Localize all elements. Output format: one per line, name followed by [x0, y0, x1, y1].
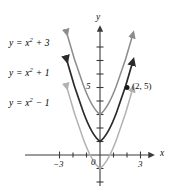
- label-exp-1: 2: [30, 66, 33, 73]
- x-axis-label: x: [160, 148, 164, 158]
- label-y-eq-x2-minus-1: y = x2 − 1: [9, 96, 50, 108]
- label-rhs-2: − 1: [36, 98, 50, 108]
- label-rhs-1: + 1: [36, 68, 50, 78]
- point-marker-2-5: [125, 85, 130, 90]
- label-y-eq-x2-plus-1: y = x2 + 1: [9, 66, 50, 78]
- label-rhs-0: + 3: [36, 38, 50, 48]
- label-y-eq-x2-plus-3: y = x2 + 3: [9, 36, 50, 48]
- x-tick-label-origin: 0: [91, 157, 96, 167]
- label-lhs-2: y = x: [9, 98, 30, 108]
- x-tick-label-3: 3: [138, 159, 143, 169]
- x-tick-label-neg3: −3: [53, 159, 64, 169]
- graph-figure: y = x2 + 3 y = x2 + 1 y = x2 − 1 (2, 5) …: [0, 0, 176, 193]
- label-lhs-0: y = x: [9, 38, 30, 48]
- label-exp-0: 2: [30, 36, 33, 43]
- label-lhs-1: y = x: [9, 68, 30, 78]
- label-exp-2: 2: [30, 96, 33, 103]
- y-axis-label: y: [96, 12, 100, 22]
- y-tick-label-5: 5: [86, 81, 91, 91]
- y-axis: [97, 28, 104, 186]
- point-label-2-5: (2, 5): [132, 81, 152, 91]
